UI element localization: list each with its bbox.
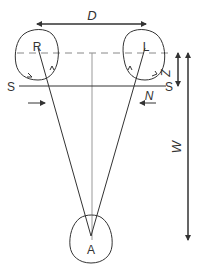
- right-eye: R: [15, 30, 58, 81]
- distance-dimension: D: [37, 8, 146, 24]
- screen-right-label: S: [165, 80, 173, 94]
- binocular-diagram: D R L S S N Z W A: [0, 0, 199, 274]
- distance-label: D: [87, 8, 96, 23]
- viewing-distance-label: W: [169, 139, 184, 153]
- right-eye-label: R: [33, 40, 42, 54]
- offset-label: Z: [159, 69, 173, 78]
- left-sight-line: [91, 48, 145, 236]
- right-sight-line: [38, 48, 91, 236]
- apex-label: A: [87, 243, 95, 257]
- apex-eye: A: [70, 215, 112, 263]
- near-marker-label: N: [145, 89, 154, 103]
- screen-left-label: S: [7, 80, 15, 94]
